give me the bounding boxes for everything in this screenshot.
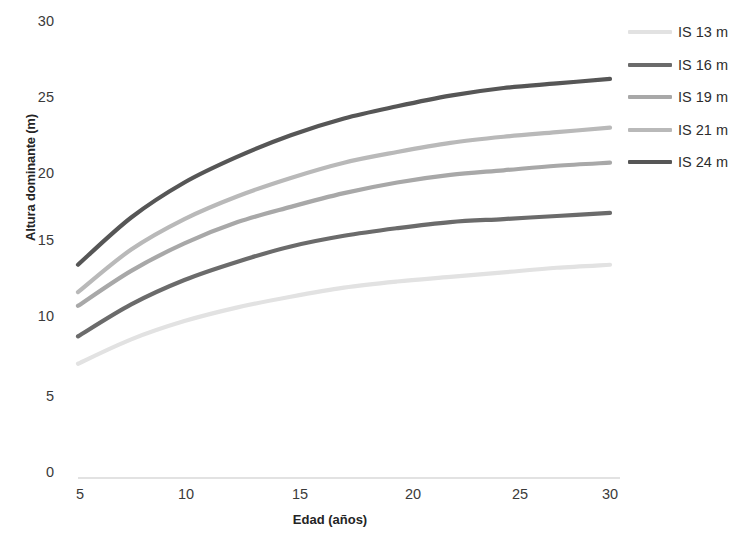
legend-swatch-is-19 xyxy=(628,95,672,99)
legend-label-is-24: IS 24 m xyxy=(678,154,728,170)
plot-area xyxy=(0,0,729,538)
curve-is-13-m xyxy=(78,265,610,364)
legend-item-is-13: IS 13 m xyxy=(628,16,728,49)
legend-item-is-24: IS 24 m xyxy=(628,146,728,179)
legend: IS 13 m IS 16 m IS 19 m IS 21 m IS 24 m xyxy=(628,16,728,179)
legend-swatch-is-21 xyxy=(628,128,672,132)
curve-group xyxy=(78,79,610,364)
legend-swatch-is-16 xyxy=(628,63,672,67)
legend-item-is-19: IS 19 m xyxy=(628,81,728,114)
legend-label-is-13: IS 13 m xyxy=(678,24,728,40)
legend-swatch-is-13 xyxy=(628,30,672,34)
legend-label-is-21: IS 21 m xyxy=(678,122,728,138)
curve-is-21-m xyxy=(78,128,610,293)
legend-item-is-21: IS 21 m xyxy=(628,114,728,147)
legend-swatch-is-24 xyxy=(628,160,672,164)
site-index-curve-chart: Altura dominante (m) 30 25 20 15 10 5 0 … xyxy=(0,0,729,538)
legend-item-is-16: IS 16 m xyxy=(628,49,728,82)
legend-label-is-16: IS 16 m xyxy=(678,57,728,73)
legend-label-is-19: IS 19 m xyxy=(678,89,728,105)
